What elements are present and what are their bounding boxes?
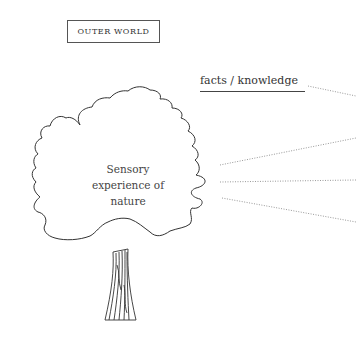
crown-line-3: nature xyxy=(68,193,188,209)
connector-2 xyxy=(220,180,356,182)
crown-line-2: experience of xyxy=(68,177,188,193)
facts-underline xyxy=(200,91,305,92)
crown-text: Sensory experience of nature xyxy=(68,161,188,209)
connector-3 xyxy=(222,198,356,222)
crown-line-1: Sensory xyxy=(68,161,188,177)
tree-trunk xyxy=(105,249,136,320)
connector-facts xyxy=(308,86,356,96)
facts-knowledge-label: facts / knowledge xyxy=(200,74,298,87)
outer-world-label: OUTER WORLD xyxy=(67,20,160,43)
connector-1 xyxy=(220,138,356,165)
outer-world-text: OUTER WORLD xyxy=(77,27,149,36)
